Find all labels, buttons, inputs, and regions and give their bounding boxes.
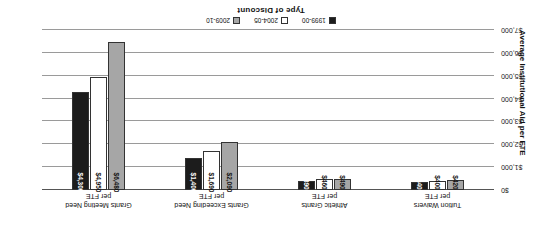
legend-swatch-icon [281,17,288,24]
category-label-line2: per FTE [393,192,483,201]
bar-value-label: $390 [303,175,310,189]
bar-slot: $6,480 [108,30,125,190]
bar-grants-exceeding-need-1999-00[interactable]: $1,400 [185,158,202,190]
legend-swatch-icon [233,17,240,24]
category-label-grants-meeting-need: Grants Meeting Need per FTE [54,192,144,210]
legend-label: 2004-05 [254,17,278,24]
bar-slot: $390 [298,30,315,190]
bar-value-label: $1,690 [208,173,215,193]
category-label-line1: Tuition Waivers [393,201,483,210]
bar-slot: $340 [411,30,428,190]
y-tick-label: $0 [501,187,509,194]
bar-slot: $1,400 [185,30,202,190]
bar-grants-meeting-need-2004-05[interactable]: $4,950 [90,77,107,190]
bar-athletic-grants-2004-05[interactable]: $460 [316,180,333,191]
bar-group-grants-exceeding-need: $2,090$1,690$1,400 [167,30,257,190]
bar-slot: $460 [316,30,333,190]
category-label-line2: per FTE [54,192,144,201]
bar-value-label: $400 [434,175,441,189]
rotated-figure-container: Tuition Waivers per FTE Athletic Grants … [0,0,542,230]
plot-area: $420$400$340$490$460$390$2,090$1,690$1,4… [42,30,494,190]
bar-value-label: $420 [452,175,459,189]
category-label-line1: Athletic Grants [280,201,370,210]
category-label-grants-exceeding-need: Grants Exceeding Need per FTE [167,192,257,210]
bar-group-athletic-grants: $490$460$390 [280,30,370,190]
bar-slot: $2,090 [221,30,238,190]
category-axis-labels: Tuition Waivers per FTE Athletic Grants … [42,192,494,218]
bar-chart: Tuition Waivers per FTE Athletic Grants … [0,0,542,230]
category-label-line2: per FTE [280,192,370,201]
bar-value-label: $6,480 [113,173,120,193]
bar-value-label: $340 [416,175,423,189]
y-tick-label: $1,000 [501,164,522,171]
bar-value-label: $4,950 [95,173,102,193]
category-label-line2: per FTE [167,192,257,201]
bar-athletic-grants-1999-00[interactable]: $390 [298,181,315,190]
bar-slot: $4,950 [90,30,107,190]
bar-slot: $4,300 [72,30,89,190]
bar-group-tuition-waivers: $420$400$340 [393,30,483,190]
bar-slot: $420 [447,30,464,190]
bar-group-grants-meeting-need: $6,480$4,950$4,300 [54,30,144,190]
bar-grants-exceeding-need-2004-05[interactable]: $1,690 [203,151,220,190]
bar-tuition-waivers-2004-05[interactable]: $400 [429,181,446,190]
category-label-line1: Grants Meeting Need [54,201,144,210]
bar-grants-exceeding-need-2009-10[interactable]: $2,090 [221,142,238,190]
legend-item-2009-10[interactable]: 2009-10 [206,17,240,24]
bar-value-label: $4,300 [77,173,84,193]
y-axis-title: Average Institutional Aid per FTE [518,30,527,156]
category-label-tuition-waivers: Tuition Waivers per FTE [393,192,483,210]
legend: 1999-002004-052009-10 [0,17,542,24]
bar-slot: $490 [334,30,351,190]
bar-value-label: $1,400 [190,173,197,193]
bar-grants-meeting-need-1999-00[interactable]: $4,300 [72,92,89,190]
bar-groups: $420$400$340$490$460$390$2,090$1,690$1,4… [42,30,494,190]
legend-label: 1999-00 [302,17,326,24]
x-axis-title: Type of Discount [0,6,542,15]
bar-slot: $1,690 [203,30,220,190]
bar-value-label: $460 [321,175,328,189]
bar-athletic-grants-2009-10[interactable]: $490 [334,179,351,190]
category-label-athletic-grants: Athletic Grants per FTE [280,192,370,210]
bar-value-label: $490 [339,175,346,189]
bar-slot: $400 [429,30,446,190]
bar-tuition-waivers-2009-10[interactable]: $420 [447,180,464,190]
category-label-line1: Grants Exceeding Need [167,201,257,210]
legend-item-1999-00[interactable]: 1999-00 [302,17,336,24]
legend-item-2004-05[interactable]: 2004-05 [254,17,288,24]
bar-grants-meeting-need-2009-10[interactable]: $6,480 [108,42,125,190]
legend-label: 2009-10 [206,17,230,24]
y-axis-title-container: Average Institutional Aid per FTE [524,30,538,190]
legend-swatch-icon [329,17,336,24]
bar-value-label: $2,090 [226,173,233,193]
bar-tuition-waivers-1999-00[interactable]: $340 [411,182,428,190]
